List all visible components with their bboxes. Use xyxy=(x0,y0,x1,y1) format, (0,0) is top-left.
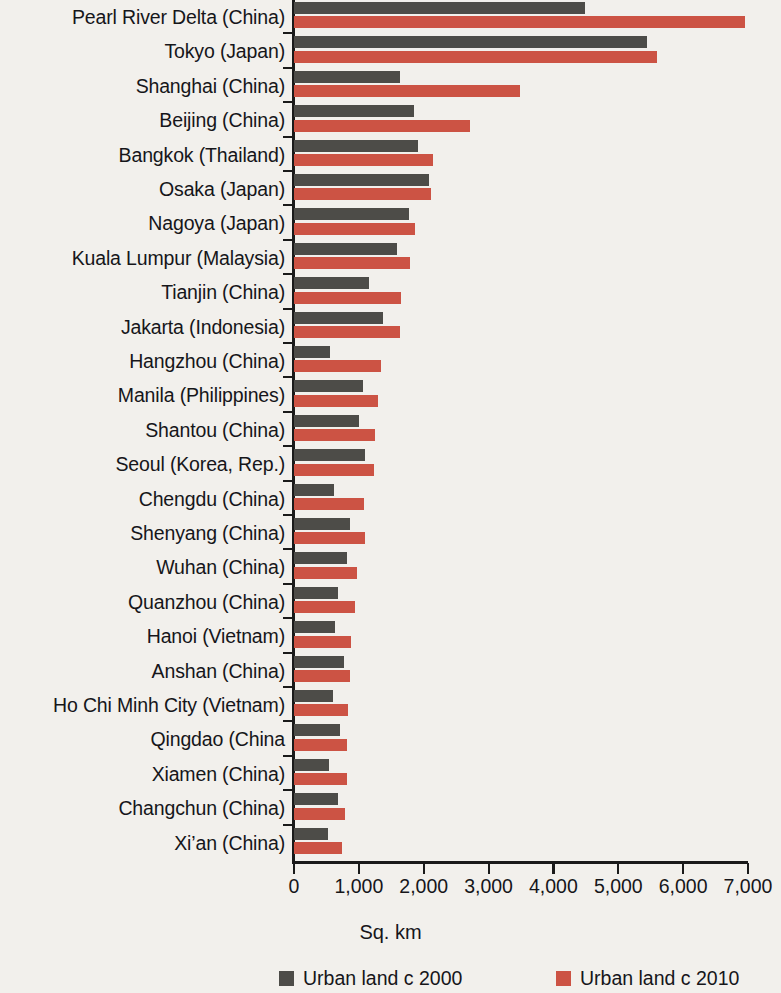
y-axis-tick xyxy=(283,445,293,447)
bar-urban-land-2000 xyxy=(294,71,400,83)
category-label: Qingdao (China xyxy=(151,730,286,750)
y-axis-tick xyxy=(283,32,293,34)
y-axis-tick xyxy=(283,755,293,757)
bar-urban-land-2010 xyxy=(294,360,381,372)
bar-urban-land-2010 xyxy=(294,51,657,63)
x-axis-tick-label: 4,000 xyxy=(529,877,578,897)
bar-urban-land-2010 xyxy=(294,16,745,28)
y-axis-tick xyxy=(283,101,293,103)
legend-swatch-2000-icon xyxy=(279,971,294,986)
chart-legend: Urban land c 2000 Urban land c 2010 xyxy=(0,967,781,993)
y-axis-tick xyxy=(283,376,293,378)
bar-urban-land-2000 xyxy=(294,105,414,117)
y-axis-tick xyxy=(283,411,293,413)
category-label: Xi’an (China) xyxy=(174,834,285,854)
bar-urban-land-2010 xyxy=(294,532,365,544)
category-label: Wuhan (China) xyxy=(156,558,285,578)
bar-urban-land-2010 xyxy=(294,292,401,304)
x-axis-tick xyxy=(682,863,684,874)
category-label: Bangkok (Thailand) xyxy=(119,146,285,166)
y-axis-tick xyxy=(283,548,293,550)
category-label: Ho Chi Minh City (Vietnam) xyxy=(53,696,285,716)
bar-urban-land-2010 xyxy=(294,498,364,510)
x-axis-tick xyxy=(617,863,619,874)
y-axis-tick xyxy=(283,652,293,654)
x-axis-title: Sq. km xyxy=(0,921,781,944)
bar-urban-land-2000 xyxy=(294,2,585,14)
x-axis-tick xyxy=(488,863,490,874)
bar-urban-land-2000 xyxy=(294,243,397,255)
y-axis-tick xyxy=(283,686,293,688)
y-axis-tick xyxy=(283,239,293,241)
category-label: Shenyang (China) xyxy=(130,524,285,544)
bar-urban-land-2000 xyxy=(294,415,359,427)
category-label: Hanoi (Vietnam) xyxy=(147,627,285,647)
bar-urban-land-2000 xyxy=(294,346,330,358)
bar-urban-land-2000 xyxy=(294,484,334,496)
bar-urban-land-2000 xyxy=(294,690,333,702)
x-axis-tick-label: 0 xyxy=(289,877,300,897)
bar-urban-land-2000 xyxy=(294,449,365,461)
x-axis-tick-label: 5,000 xyxy=(594,877,643,897)
bar-urban-land-2000 xyxy=(294,36,647,48)
bar-urban-land-2000 xyxy=(294,552,347,564)
x-axis-tick xyxy=(423,863,425,874)
bar-urban-land-2000 xyxy=(294,656,344,668)
category-label: Nagoya (Japan) xyxy=(148,214,285,234)
bar-urban-land-2010 xyxy=(294,257,410,269)
bar-urban-land-2010 xyxy=(294,739,347,751)
bar-urban-land-2010 xyxy=(294,567,357,579)
bar-urban-land-2000 xyxy=(294,380,363,392)
bar-urban-land-2010 xyxy=(294,808,345,820)
y-axis-tick xyxy=(283,136,293,138)
bar-urban-land-2010 xyxy=(294,326,400,338)
y-axis-tick xyxy=(283,480,293,482)
bar-urban-land-2010 xyxy=(294,85,520,97)
legend-swatch-2010-icon xyxy=(556,971,571,986)
y-axis-tick xyxy=(283,67,293,69)
bar-urban-land-2000 xyxy=(294,724,340,736)
bar-urban-land-2010 xyxy=(294,464,374,476)
bar-urban-land-2010 xyxy=(294,773,347,785)
bar-urban-land-2000 xyxy=(294,621,335,633)
category-label: Changchun (China) xyxy=(118,799,285,819)
bar-urban-land-2000 xyxy=(294,140,418,152)
y-axis-tick xyxy=(283,617,293,619)
bar-urban-land-2000 xyxy=(294,312,383,324)
bar-chart: Pearl River Delta (China)Tokyo (Japan)Sh… xyxy=(0,0,781,993)
bar-urban-land-2000 xyxy=(294,793,338,805)
category-label: Shanghai (China) xyxy=(136,77,285,97)
y-axis-tick xyxy=(283,789,293,791)
bar-urban-land-2000 xyxy=(294,208,409,220)
category-label: Pearl River Delta (China) xyxy=(72,8,285,28)
category-label: Quanzhou (China) xyxy=(128,593,285,613)
bar-urban-land-2010 xyxy=(294,188,431,200)
category-label: Seoul (Korea, Rep.) xyxy=(116,455,286,475)
bar-urban-land-2000 xyxy=(294,174,429,186)
y-axis-tick xyxy=(283,342,293,344)
bar-urban-land-2000 xyxy=(294,277,369,289)
x-axis-tick-label: 3,000 xyxy=(464,877,513,897)
plot-area: Pearl River Delta (China)Tokyo (Japan)Sh… xyxy=(0,0,781,870)
legend-label-2010: Urban land c 2010 xyxy=(580,967,739,990)
bar-urban-land-2010 xyxy=(294,154,433,166)
legend-label-2000: Urban land c 2000 xyxy=(303,967,462,990)
category-label: Kuala Lumpur (Malaysia) xyxy=(72,249,285,269)
bar-urban-land-2000 xyxy=(294,828,328,840)
y-axis-tick xyxy=(283,170,293,172)
x-axis-tick-label: 1,000 xyxy=(334,877,383,897)
category-label: Manila (Philippines) xyxy=(118,386,285,406)
bar-urban-land-2000 xyxy=(294,518,350,530)
category-label: Tianjin (China) xyxy=(161,283,285,303)
x-axis-line xyxy=(292,861,748,864)
x-axis-tick xyxy=(552,863,554,874)
y-axis-tick xyxy=(283,273,293,275)
x-axis-tick-label: 7,000 xyxy=(724,877,773,897)
legend-item-urban-land-2010: Urban land c 2010 xyxy=(556,967,739,990)
bar-urban-land-2010 xyxy=(294,429,375,441)
category-label: Jakarta (Indonesia) xyxy=(121,318,285,338)
category-label: Anshan (China) xyxy=(152,662,285,682)
bar-urban-land-2010 xyxy=(294,842,342,854)
bar-urban-land-2010 xyxy=(294,223,415,235)
category-label: Hangzhou (China) xyxy=(129,352,285,372)
